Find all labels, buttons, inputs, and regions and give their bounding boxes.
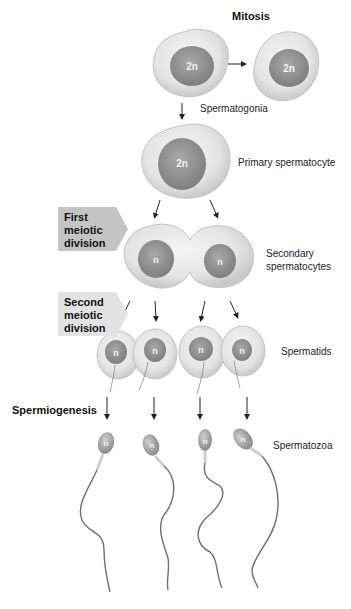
label-spermatogonia: Spermatogonia: [200, 103, 268, 115]
svg-text:n: n: [104, 439, 109, 448]
first-meiotic-line1: First: [64, 211, 116, 224]
first-meiotic-line3: division: [64, 237, 116, 250]
label-secondary-line2: spermatocytes: [266, 261, 331, 273]
svg-text:n: n: [241, 435, 246, 444]
label-secondary-line1: Secondary: [266, 248, 314, 260]
sperm-2: n: [140, 432, 174, 590]
primary-spermatocyte-cell: 2n: [142, 124, 230, 198]
second-meiotic-line3: division: [64, 322, 116, 335]
first-meiotic-division-box: First meiotic division: [58, 207, 116, 251]
spermatids-cells: n n n n: [97, 326, 265, 394]
svg-text:n: n: [198, 345, 204, 355]
second-meiotic-division-box: Second meiotic division: [58, 292, 116, 336]
label-spermiogenesis: Spermiogenesis: [12, 404, 97, 416]
second-meiotic-line1: Second: [64, 296, 116, 309]
spermatozoa: n n n n: [80, 425, 278, 592]
sperm-1: n: [80, 430, 116, 592]
ploidy-label: 2n: [186, 61, 198, 72]
svg-text:2n: 2n: [176, 158, 188, 169]
svg-text:n: n: [152, 346, 158, 356]
label-primary-spermatocyte: Primary spermatocyte: [238, 157, 335, 169]
spermatogonium-cell-2: 2n: [254, 32, 319, 101]
svg-text:n: n: [153, 255, 159, 265]
second-meiotic-line2: meiotic: [64, 309, 116, 322]
svg-text:n: n: [239, 346, 245, 356]
sperm-3: n: [198, 429, 223, 588]
svg-text:n: n: [217, 257, 223, 267]
label-spermatozoa: Spermatozoa: [273, 440, 332, 452]
svg-text:n: n: [113, 348, 119, 358]
spermatogonium-cell-1: 2n: [153, 29, 228, 96]
sperm-4: n: [229, 425, 278, 588]
spermatogenesis-diagram: 2n 2n 2n n n n n n: [0, 0, 351, 609]
secondary-spermatocytes-cell: n n: [124, 224, 253, 288]
svg-text:n: n: [150, 441, 155, 450]
label-spermatids: Spermatids: [281, 346, 332, 358]
svg-text:2n: 2n: [283, 63, 295, 74]
first-meiotic-line2: meiotic: [64, 224, 116, 237]
svg-text:n: n: [203, 437, 208, 446]
